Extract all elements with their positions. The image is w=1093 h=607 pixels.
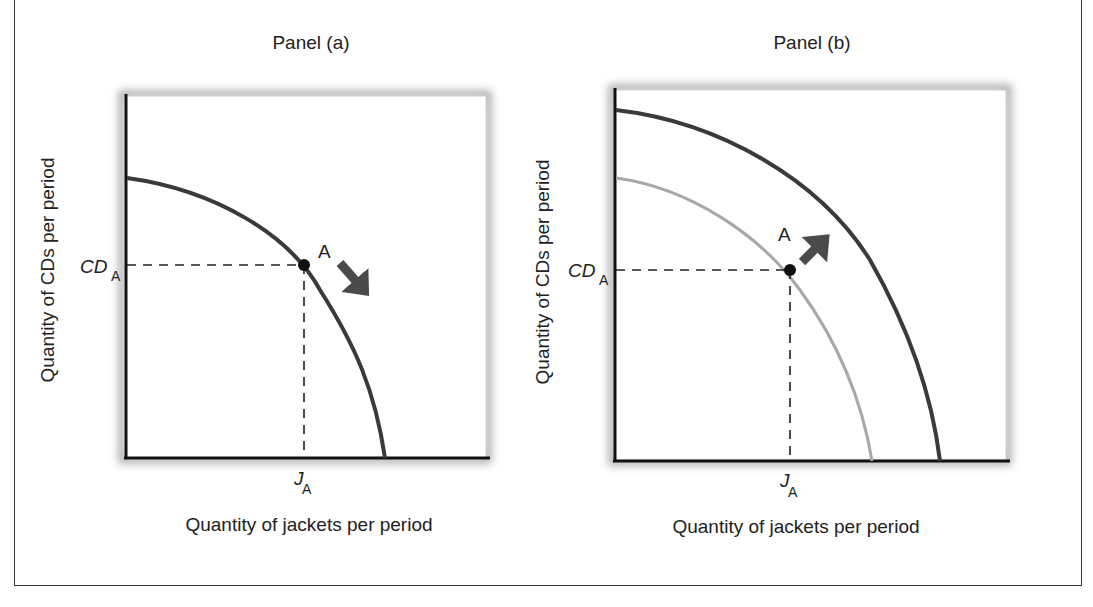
panel-b-title: Panel (b) bbox=[773, 32, 850, 53]
panel-a-cd-marker: CD bbox=[80, 256, 108, 277]
panel-b-x-label: Quantity of jackets per period bbox=[672, 516, 919, 537]
panel-a-x-label: Quantity of jackets per period bbox=[185, 514, 432, 535]
panel-b-y-label: Quantity of CDs per period bbox=[532, 160, 553, 385]
panel-a-y-label: Quantity of CDs per period bbox=[37, 158, 58, 383]
panel-a-plot-area bbox=[124, 96, 486, 458]
panel-a-point-label: A bbox=[318, 241, 331, 262]
panel-a-title: Panel (a) bbox=[272, 32, 349, 53]
panel-b-point-a bbox=[784, 264, 796, 276]
panel-b-cd-marker-sub: A bbox=[599, 272, 609, 288]
panel-a-j-marker-sub: A bbox=[302, 481, 312, 497]
panel-b-plot-area bbox=[614, 90, 1006, 460]
panel-a-point-a bbox=[298, 259, 310, 271]
panel-b-cd-marker: CD bbox=[568, 260, 596, 281]
panel-b-point-label: A bbox=[778, 224, 791, 245]
ppf-figure: Panel (a) A CD A J A Quantity of jackets… bbox=[0, 0, 1093, 607]
panel-a-cd-marker-sub: A bbox=[111, 268, 121, 284]
panel-a: Panel (a) A CD A J A Quantity of jackets… bbox=[37, 32, 490, 535]
panel-b: Panel (b) A CD A J A Quantity of jackets… bbox=[532, 32, 1010, 537]
panel-b-j-marker-sub: A bbox=[788, 484, 798, 500]
